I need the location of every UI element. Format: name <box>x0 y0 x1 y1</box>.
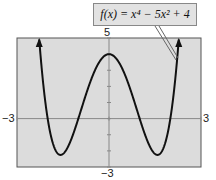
x-min-label: −3 <box>2 112 15 124</box>
y-min-label: −3 <box>101 167 114 179</box>
x-max-label: 3 <box>203 112 209 124</box>
y-max-label: 5 <box>104 26 110 38</box>
equation-label: f(x) = x⁴ − 5x² + 4 <box>93 3 197 26</box>
